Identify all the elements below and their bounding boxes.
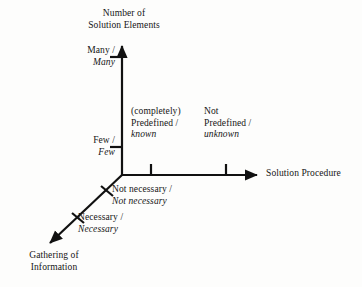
x-tick-label-not-predefined: Not Predefined / unknown <box>204 106 251 141</box>
y-axis-title-line1: Number of <box>64 8 184 20</box>
y-tick-label-many-primary: Many / <box>40 45 115 57</box>
three-dimensional-axis-diagram: Number of Solution Elements Many / Many … <box>0 0 362 287</box>
y-tick-label-few-primary: Few / <box>40 135 115 147</box>
z-tick-label-necessary: Necessary / Necessary <box>78 212 123 235</box>
x-tick-label-predefined-alt: known <box>131 129 181 141</box>
x-axis-title: Solution Procedure <box>266 168 341 180</box>
z-tick-label-not-necessary: Not necessary / Not necessary <box>112 184 172 207</box>
z-axis-title-line1: Gathering of <box>2 250 106 262</box>
y-tick-label-many: Many / Many <box>40 45 115 68</box>
z-tick-label-necessary-alt: Necessary <box>78 224 123 236</box>
z-axis-title-line2: Information <box>2 262 106 274</box>
x-tick-label-predefined-line2: Predefined / <box>131 118 181 130</box>
x-tick-label-not-predefined-line2: Predefined / <box>204 118 251 130</box>
y-tick-label-many-alt: Many <box>40 57 115 69</box>
y-tick-label-few: Few / Few <box>40 135 115 158</box>
z-tick-label-not-necessary-primary: Not necessary / <box>112 184 172 196</box>
x-tick-label-predefined: (completely) Predefined / known <box>131 106 181 141</box>
z-tick-label-necessary-primary: Necessary / <box>78 212 123 224</box>
x-tick-label-not-predefined-alt: unknown <box>204 129 251 141</box>
x-tick-label-not-predefined-line1: Not <box>204 106 251 118</box>
x-tick-label-predefined-line1: (completely) <box>131 106 181 118</box>
y-tick-label-few-alt: Few <box>40 147 115 159</box>
y-axis-title-line2: Solution Elements <box>64 20 184 32</box>
z-tick-label-not-necessary-alt: Not necessary <box>112 196 172 208</box>
z-axis-title: Gathering of Information <box>2 250 106 273</box>
y-axis-title: Number of Solution Elements <box>64 8 184 31</box>
